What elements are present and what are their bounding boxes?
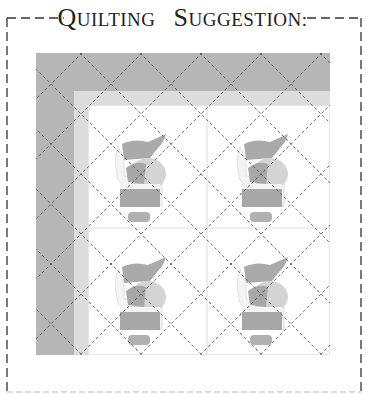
- quilt-diagram: [36, 53, 330, 355]
- page-title: QUILTING SUGGESTION:: [0, 1, 365, 37]
- title-word-1: QUILTING: [57, 6, 155, 31]
- title-word-2: SUGGESTION:: [174, 6, 308, 31]
